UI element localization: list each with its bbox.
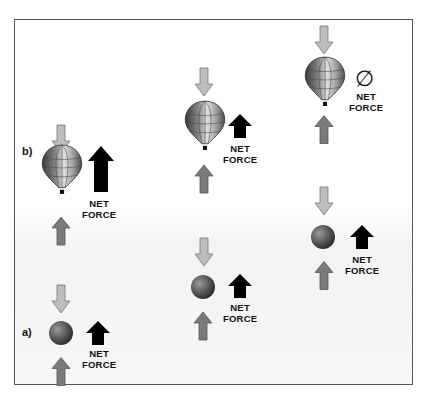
gravity-arrow-down-icon — [195, 68, 213, 96]
force-label: FORCE — [349, 102, 383, 113]
lift-arrow-up-icon — [315, 262, 333, 290]
hot-air-balloon-icon — [42, 145, 82, 194]
hot-air-balloon-icon — [185, 101, 225, 150]
scene-ball-middle — [191, 238, 252, 340]
zero-symbol-icon: ∅ — [355, 68, 374, 90]
panel-label-a: a) — [22, 326, 32, 338]
net-force-label-balloon-right: NET FORCE — [349, 91, 383, 113]
lift-arrow-up-icon — [52, 358, 70, 386]
gravity-arrow-down-icon — [195, 238, 213, 266]
net-force-up-arrow-icon — [350, 225, 374, 249]
net-label: NET — [349, 91, 383, 102]
net-force-label-balloon-middle: NET FORCE — [223, 143, 257, 165]
net-label: NET — [223, 143, 257, 154]
scene-balloon-b-left — [42, 125, 114, 245]
net-force-label-b-left: NET FORCE — [82, 198, 116, 220]
net-force-label-ball-right: NET FORCE — [345, 254, 379, 276]
gravity-arrow-down-icon — [315, 187, 333, 215]
net-force-large-up-arrow-icon — [88, 146, 114, 192]
ball-icon — [311, 225, 335, 249]
hot-air-balloon-icon — [305, 57, 345, 106]
ball-icon — [49, 321, 73, 345]
force-label: FORCE — [223, 154, 257, 165]
scene-ball-a-left — [49, 285, 110, 386]
net-label: NET — [345, 254, 379, 265]
panel-label-b: b) — [22, 145, 32, 157]
scene-balloon-middle — [185, 68, 252, 193]
lift-arrow-up-icon — [194, 312, 212, 340]
net-force-up-arrow-icon — [86, 321, 110, 345]
gravity-arrow-down-icon — [315, 26, 333, 54]
force-label: FORCE — [82, 209, 116, 220]
diagram-canvas — [0, 0, 425, 405]
force-label: FORCE — [345, 265, 379, 276]
ball-icon — [191, 275, 215, 299]
net-force-label-ball-middle: NET FORCE — [223, 302, 257, 324]
lift-arrow-up-icon — [315, 116, 333, 144]
net-label: NET — [82, 348, 116, 359]
lift-arrow-up-icon — [52, 217, 70, 245]
net-force-up-arrow-icon — [228, 114, 252, 138]
net-label: NET — [223, 302, 257, 313]
force-label: FORCE — [223, 313, 257, 324]
net-label: NET — [82, 198, 116, 209]
net-force-label-ball-a-left: NET FORCE — [82, 348, 116, 370]
scene-balloon-right — [305, 26, 345, 144]
lift-arrow-up-icon — [195, 165, 213, 193]
gravity-arrow-down-icon — [52, 285, 70, 313]
net-force-up-arrow-icon — [228, 274, 252, 298]
force-label: FORCE — [82, 359, 116, 370]
